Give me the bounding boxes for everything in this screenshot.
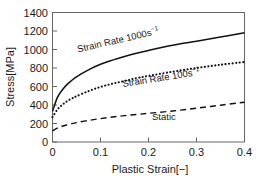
annotation-strain-rate-100: Strain Rate 100s−1: [121, 65, 200, 89]
annotation-text: Static: [152, 111, 176, 122]
svg-text:Strain Rate 1000s−1: Strain Rate 1000s−1: [76, 24, 160, 55]
figure-container: 0 200 400 600 800 1000 1200 1400 0 0.1 0…: [0, 0, 260, 179]
series-line-strain-rate-100: [53, 62, 245, 117]
annotation-text: Strain Rate 100s: [122, 67, 194, 89]
x-tick-label: 0: [49, 146, 55, 158]
y-tick-labels: 0 200 400 600 800 1000 1200 1400: [24, 7, 48, 149]
y-tick-label: 400: [30, 99, 48, 111]
y-tick-label: 800: [30, 62, 48, 74]
x-tick-label: 0.4: [237, 146, 252, 158]
series-line-static: [53, 102, 245, 131]
y-tick-label: 1000: [24, 44, 48, 56]
y-tick-label: 200: [30, 118, 48, 130]
y-tick-label: 1200: [24, 25, 48, 37]
x-tick-label: 0.3: [189, 146, 204, 158]
svg-text:Strain Rate 100s−1: Strain Rate 100s−1: [121, 65, 200, 89]
annotation-superscript: −1: [191, 65, 200, 73]
stress-strain-chart: 0 200 400 600 800 1000 1200 1400 0 0.1 0…: [0, 0, 260, 179]
y-tick-label: 1400: [24, 7, 48, 19]
svg-text:Static: Static: [152, 111, 176, 122]
y-axis-title: Stress[MPa]: [4, 47, 16, 107]
y-tick-label: 600: [30, 81, 48, 93]
annotation-superscript: −1: [150, 24, 159, 33]
x-axis-ticks: [53, 138, 245, 143]
y-tick-label: 0: [42, 136, 48, 148]
annotation-strain-rate-1000: Strain Rate 1000s−1: [76, 24, 160, 55]
x-axis-title: Plastic Strain[−]: [112, 163, 189, 175]
x-tick-label: 0.1: [93, 146, 108, 158]
x-tick-label: 0.2: [141, 146, 156, 158]
y-axis-ticks: [53, 13, 58, 143]
annotation-static: Static: [152, 111, 176, 122]
annotation-text: Strain Rate 1000s: [76, 27, 153, 55]
x-tick-labels: 0 0.1 0.2 0.3 0.4: [49, 146, 252, 158]
